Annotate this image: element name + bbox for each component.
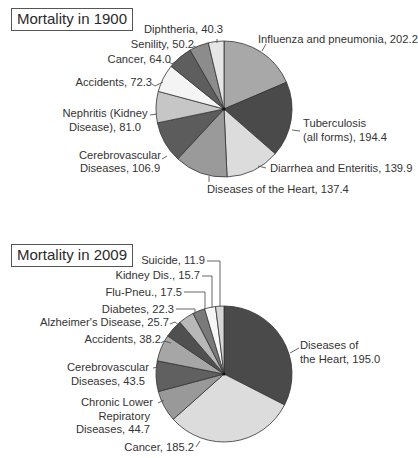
label-cerebrovascular-1: Cerebrovascular [78, 149, 162, 163]
label-clrd-3: Diseases, 44.7 [76, 423, 150, 437]
label-heart-2009-2: the Heart, 195.0 [300, 353, 380, 367]
pie-center-dot [222, 107, 225, 110]
label-cerebrovascular-2: Diseases, 106.9 [78, 162, 162, 176]
label-tuberculosis-1: Tuberculosis [303, 117, 366, 131]
label-tuberculosis-2: (all forms), 194.4 [303, 131, 387, 145]
label-heart: Diseases of the Heart, 137.4 [207, 183, 349, 197]
pie-center-dot [222, 372, 225, 375]
label-accidents-2009: Accidents, 38.2 [85, 333, 162, 347]
label-influenza: Influenza and pneumonia, 202.2 [258, 33, 418, 47]
label-accidents: Accidents, 72.3 [76, 76, 153, 90]
label-cancer-2009: Cancer, 185.2 [124, 441, 194, 455]
label-alzheimers: Alzheimer's Disease, 25.7 [40, 316, 169, 330]
label-senility: Senility, 50.2 [131, 38, 194, 52]
label-cerebrovascular-2009-1: Cerebrovascular [64, 361, 152, 375]
label-kidney: Kidney Dis., 15.7 [115, 269, 200, 283]
label-diarrhea: Diarrhea and Enteritis, 139.9 [270, 162, 412, 176]
label-heart-2009-1: Diseases of [300, 339, 358, 353]
label-diphtheria: Diphtheria, 40.3 [144, 23, 223, 37]
label-cancer: Cancer, 64.0 [108, 53, 171, 67]
pie-chart-1900 [156, 41, 292, 177]
label-flu-pneu: Flu-Pneu., 17.5 [106, 286, 183, 300]
chart-title-1900: Mortality in 1900 [11, 8, 133, 31]
label-clrd-1: Chronic Lower [78, 396, 156, 410]
label-diabetes: Diabetes, 22.3 [102, 303, 174, 317]
label-nephritis-1: Nephritis (Kidney [58, 107, 152, 121]
label-nephritis-2: Disease), 81.0 [58, 121, 152, 135]
pie-chart-2009 [156, 306, 292, 442]
label-cerebrovascular-2009-2: Diseases, 43.5 [64, 375, 152, 389]
chart-title-2009: Mortality in 2009 [11, 244, 133, 267]
label-suicide: Suicide, 11.9 [141, 254, 205, 268]
label-clrd-2: Repiratory [98, 410, 150, 424]
